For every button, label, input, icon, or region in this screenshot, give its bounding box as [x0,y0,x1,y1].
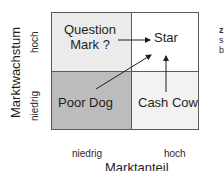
question-mark-label: Question Mark ? [60,22,120,52]
y-axis-high-label: hoch [29,31,40,53]
portfolio-matrix: Question Mark ? Star Poor Dog Cash Cow [51,12,199,130]
star-label: Star [154,30,178,45]
poor-dog-label: Poor Dog [58,95,113,110]
x-axis-high-label: hoch [164,148,186,159]
quadrant-star: Star [132,13,198,72]
x-axis-low-label: niedrig [72,148,102,159]
x-axis-title: Marktanteil [105,160,169,171]
quadrant-question-mark: Question Mark ? [52,13,132,72]
edge-fragment-1: z [219,25,224,35]
y-axis-title: Marktwachstum [8,27,23,118]
cash-cow-label: Cash Cow [138,95,198,110]
question-mark-line1: Question [60,22,120,37]
question-mark-line2: Mark ? [60,37,120,52]
quadrant-cash-cow: Cash Cow [132,72,198,129]
quadrant-poor-dog: Poor Dog [52,72,132,129]
y-axis-low-label: niedrig [29,91,40,121]
edge-fragment-3: b [219,45,224,55]
edge-fragment-2: s [219,35,224,45]
